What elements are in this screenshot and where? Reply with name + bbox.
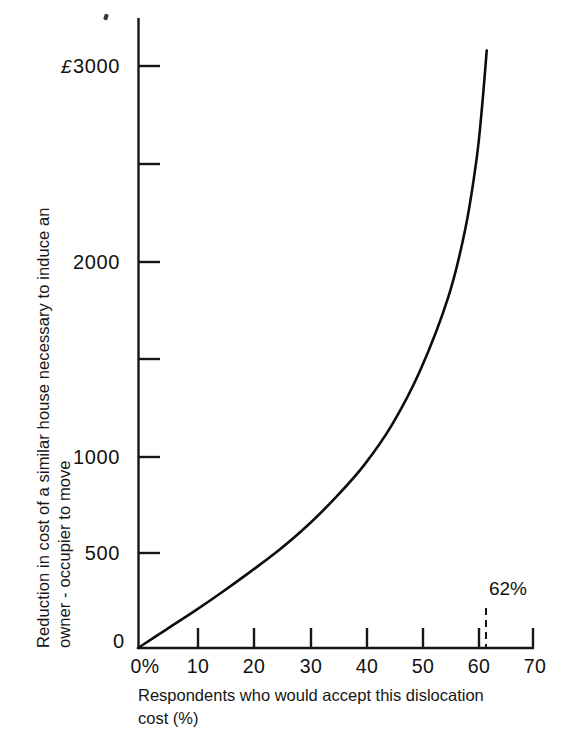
chart-figure: Reduction in cost of a similar house nec…	[0, 0, 566, 742]
x-tick-label-10: 10	[187, 655, 210, 678]
y-tick-value-3000: 3000	[73, 55, 120, 77]
x-tick-label-20: 20	[243, 655, 266, 678]
y-tick-label-500: 500	[10, 542, 120, 565]
x-tick-label-40: 40	[356, 655, 379, 678]
y-tick-label-1000: 1000	[10, 446, 120, 469]
y-tick-label-2000: 2000	[10, 251, 120, 274]
x-tick-label-0: 0%	[131, 655, 160, 678]
pound-sign-icon: £	[61, 56, 73, 77]
data-curve	[138, 50, 487, 648]
y-tick-label-3000: £3000	[10, 55, 120, 78]
x-tick-label-50: 50	[412, 655, 435, 678]
x-tick-marks	[198, 628, 533, 648]
x-tick-label-60: 60	[468, 655, 491, 678]
annotation-label-62-percent: 62%	[489, 578, 527, 600]
y-tick-label-0: 0	[113, 630, 124, 653]
x-tick-label-70: 70	[524, 655, 547, 678]
x-axis-label: Respondents who would accept this disloc…	[138, 684, 484, 730]
x-tick-label-30: 30	[300, 655, 323, 678]
scan-artifact-speck	[103, 14, 109, 21]
y-tick-marks	[138, 66, 160, 553]
